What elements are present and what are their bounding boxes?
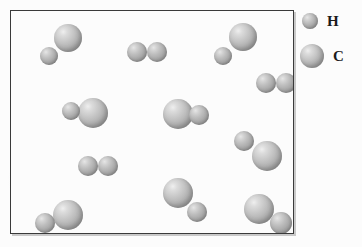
atom-h bbox=[62, 102, 80, 120]
large-gray-sphere-icon bbox=[300, 44, 324, 68]
atom-c bbox=[53, 200, 83, 230]
legend-label: H bbox=[327, 14, 339, 29]
atom-h bbox=[270, 212, 292, 233]
atom-h bbox=[276, 73, 293, 93]
atom-h bbox=[78, 156, 98, 176]
particle-field bbox=[11, 11, 293, 233]
atom-h bbox=[187, 202, 207, 222]
small-gray-sphere-icon bbox=[302, 13, 318, 29]
atom-c bbox=[78, 98, 108, 128]
atom-c bbox=[252, 141, 282, 171]
atom-h bbox=[98, 156, 118, 176]
atom-h bbox=[40, 47, 58, 65]
atom-c bbox=[54, 24, 82, 52]
atom-h bbox=[234, 131, 254, 151]
particle-container-box bbox=[10, 10, 294, 234]
atom-h bbox=[127, 42, 147, 62]
atom-h bbox=[256, 73, 276, 93]
atom-h bbox=[35, 213, 55, 233]
atom-c bbox=[163, 178, 193, 208]
atom-h bbox=[214, 47, 232, 65]
atom-c bbox=[229, 23, 257, 51]
legend-label: C bbox=[333, 49, 344, 64]
atom-h bbox=[147, 42, 167, 62]
figure-canvas: HC bbox=[0, 0, 362, 247]
atom-h bbox=[189, 105, 209, 125]
